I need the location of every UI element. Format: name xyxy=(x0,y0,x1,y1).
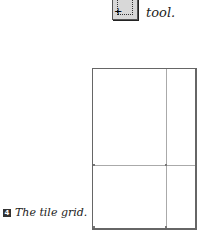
grid-vertical-line xyxy=(166,69,167,228)
previous-caption-fragment xyxy=(145,0,202,4)
grid-horizontal-line xyxy=(93,165,195,166)
plus-icon: + xyxy=(114,7,122,17)
grid-tick xyxy=(165,226,167,228)
caption-tail-text: tool. xyxy=(146,5,175,20)
grid-tick xyxy=(165,164,167,166)
grid-tick xyxy=(93,226,95,228)
grid-tick xyxy=(93,164,95,166)
figure-number-badge: 4 xyxy=(3,209,11,217)
figure-caption-text: The tile grid. xyxy=(15,206,87,219)
tile-grid-figure xyxy=(92,68,197,230)
figure-caption: 4 The tile grid. xyxy=(3,206,87,219)
tile-tool-icon: + xyxy=(112,0,138,20)
